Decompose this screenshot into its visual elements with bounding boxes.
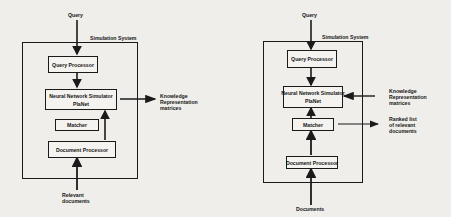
matcher-label: Matcher [67,122,87,128]
matcher-label: Matcher [303,122,323,128]
query-label-left: Query [68,12,83,18]
document-processor-label: Document Processor [56,147,108,153]
document-processor-box-right: Document Processor [286,156,338,169]
planet-label: PlaNet [73,101,89,107]
knowledge-matrices-output-left: Knowledge Representation matrices [160,93,198,111]
nn-simulator-label: Neural Network Simulator [49,93,112,99]
relevant-line-2: documents [62,198,90,204]
documents-input-right: Documents [296,206,324,212]
neural-network-simulator-box-right: Neural Network Simulator PlaNet [283,86,343,108]
matcher-box-left: Matcher [55,119,99,131]
query-processor-label: Query Processor [291,56,333,62]
query-processor-label: Query Processor [52,62,94,68]
planet-label: PlaNet [305,98,321,104]
query-label-right: Query [302,12,317,18]
document-processor-box-left: Document Processor [48,141,116,158]
query-processor-box-left: Query Processor [48,56,98,73]
query-processor-box-right: Query Processor [287,50,337,68]
krm-line-3: matrices [389,100,427,106]
krm-line-3: matrices [160,105,198,111]
document-processor-label: Document Processor [286,160,338,166]
matcher-box-right: Matcher [292,118,334,131]
ranked-list-output-right: Ranked list of relevant documents [389,116,417,134]
relevant-documents-input-left: Relevant documents [62,192,90,204]
simulation-system-label-right: Simulation System [322,34,368,40]
knowledge-matrices-input-right: Knowledge Representation matrices [389,88,427,106]
ranked-line-3: documents [389,128,417,134]
nn-simulator-label: Neural Network Simulator [281,90,344,96]
neural-network-simulator-box-left: Neural Network Simulator PlaNet [45,89,117,110]
simulation-system-label-left: Simulation System [90,35,136,41]
